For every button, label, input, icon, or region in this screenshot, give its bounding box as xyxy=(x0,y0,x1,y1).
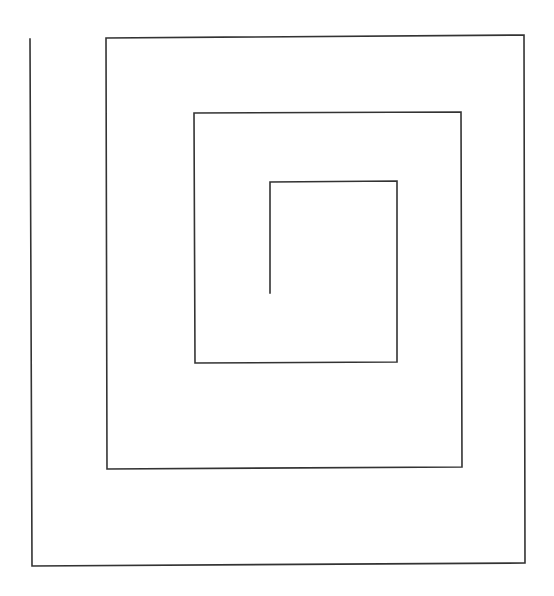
spiral-diagram xyxy=(0,0,554,596)
spiral-line xyxy=(30,35,525,566)
spiral-diagram-canvas xyxy=(0,0,554,596)
